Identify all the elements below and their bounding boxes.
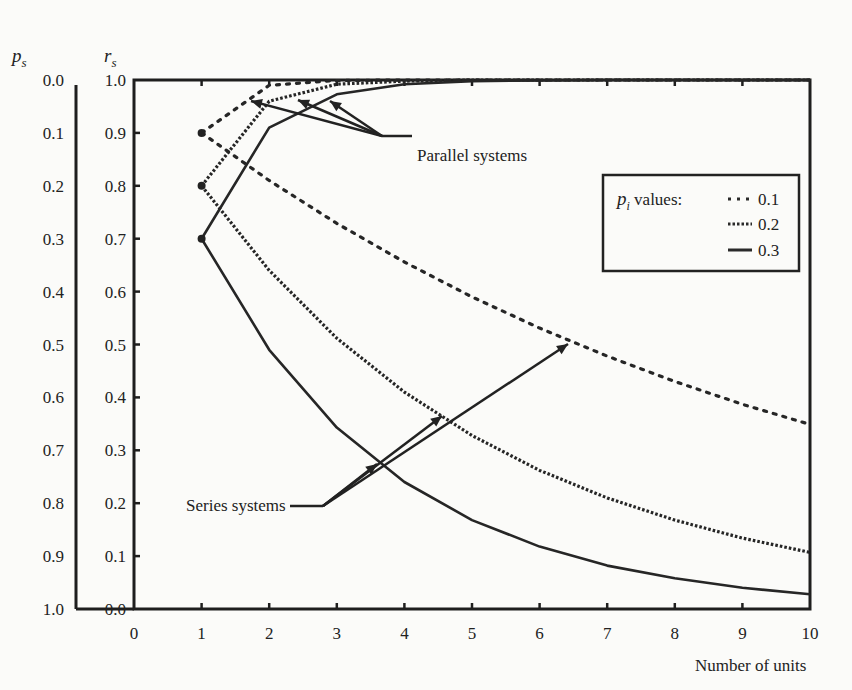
legend-title: pi values: [615, 188, 682, 213]
ps-axis-title: ps [10, 45, 27, 70]
ps-tick-label: 0.7 [43, 441, 65, 460]
rs-tick-label: 0.9 [105, 124, 126, 143]
x-tick-label: 3 [333, 624, 342, 643]
series-curve-p01 [202, 133, 810, 425]
legend-label-0.1: 0.1 [758, 190, 779, 209]
rs-tick-label: 0.5 [105, 336, 126, 355]
x-tick-label: 8 [671, 624, 680, 643]
series-curve-p02 [202, 186, 810, 553]
rs-axis-title: rs [104, 45, 116, 70]
rs-tick-label: 0.3 [105, 441, 126, 460]
legend-label-0.2: 0.2 [758, 215, 779, 234]
rs-tick-label: 0.2 [105, 494, 126, 513]
rs-tick-label: 1.0 [105, 71, 126, 90]
start-point-marker [198, 182, 206, 190]
start-point-marker [198, 129, 206, 137]
x-tick-label: 0 [130, 624, 139, 643]
ps-tick-label: 0.1 [43, 124, 64, 143]
parallel-arrow-1 [251, 101, 382, 136]
ps-tick-label: 0.8 [43, 494, 64, 513]
rs-tick-label: 0.6 [105, 283, 126, 302]
ps-tick-label: 0.3 [43, 230, 64, 249]
rs-tick-label: 0.1 [105, 547, 126, 566]
x-tick-label: 4 [400, 624, 409, 643]
series-systems-label: Series systems [186, 496, 286, 515]
x-tick-label: 9 [738, 624, 747, 643]
reliability-chart: 1.00.00.90.10.80.20.70.30.60.40.50.50.40… [0, 0, 852, 690]
x-tick-label: 2 [265, 624, 274, 643]
ps-tick-label: 0.2 [43, 177, 64, 196]
parallel-systems-label: Parallel systems [417, 146, 527, 165]
series-arrow-3 [323, 344, 568, 506]
parallel-curve-p02 [202, 80, 810, 186]
rs-tick-label: 0.4 [105, 388, 127, 407]
ps-tick-label: 0.4 [43, 283, 65, 302]
legend: pi values: 0.1 0.2 0.3 [603, 175, 799, 271]
ps-tick-label: 0.5 [43, 336, 64, 355]
parallel-curve-p01 [202, 80, 810, 133]
rs-tick-label: 0.0 [105, 600, 126, 619]
legend-label-0.3: 0.3 [758, 241, 779, 260]
x-axis-title: Number of units [695, 656, 806, 675]
parallel-arrow-3-head [330, 101, 342, 111]
ps-tick-label: 0.6 [43, 388, 64, 407]
series-arrow-3-head [556, 344, 568, 354]
rs-tick-label: 0.8 [105, 177, 126, 196]
ps-tick-label: 0.9 [43, 547, 64, 566]
start-point-marker [198, 235, 206, 243]
ps-tick-label: 1.0 [43, 600, 64, 619]
x-tick-label: 7 [603, 624, 612, 643]
x-tick-label: 10 [802, 624, 819, 643]
x-tick-label: 6 [535, 624, 544, 643]
ps-tick-label: 0.0 [43, 71, 64, 90]
rs-tick-label: 0.7 [105, 230, 127, 249]
x-tick-label: 1 [197, 624, 206, 643]
x-tick-label: 5 [468, 624, 477, 643]
